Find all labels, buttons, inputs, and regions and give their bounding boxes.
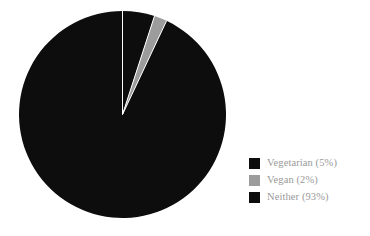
- chart-legend: Vegetarian (5%) Vegan (2%) Neither (93%): [249, 155, 367, 206]
- legend-item-neither[interactable]: Neither (93%): [249, 189, 367, 205]
- pie-chart-figure: Vegetarian (5%) Vegan (2%) Neither (93%): [0, 0, 370, 236]
- pie-chart-svg: [19, 11, 226, 218]
- legend-swatch-vegan: [249, 175, 260, 186]
- legend-item-vegan[interactable]: Vegan (2%): [249, 172, 367, 188]
- pie-chart-plot-area: [19, 11, 226, 218]
- legend-item-vegetarian[interactable]: Vegetarian (5%): [249, 155, 367, 171]
- legend-label-vegan: Vegan (2%): [267, 174, 318, 186]
- legend-label-vegetarian: Vegetarian (5%): [267, 157, 337, 169]
- legend-label-neither: Neither (93%): [267, 191, 329, 203]
- legend-swatch-vegetarian: [249, 158, 260, 169]
- legend-swatch-neither: [249, 192, 260, 203]
